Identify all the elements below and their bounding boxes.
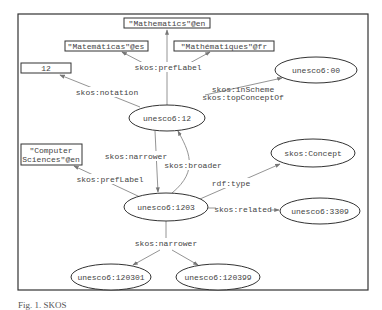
- node-label: unesco6:00: [292, 66, 340, 75]
- node-label: unesco6:1203: [137, 203, 195, 212]
- edge-label-narrower-2: skos:narrower: [135, 239, 198, 248]
- node-label-line-2: Sciences"@en: [22, 155, 80, 164]
- node-label: 12: [41, 64, 51, 73]
- node-label: unesco6:120301: [77, 273, 144, 282]
- edge-label-notation: skos:notation: [76, 88, 139, 97]
- node-label-line-1: "Computer: [29, 146, 72, 155]
- node-label: unesco6:12: [143, 114, 191, 123]
- node-label: "Mathématiques"@fr: [181, 42, 268, 51]
- edge-label-rdf-type: rdf:type: [212, 179, 251, 188]
- node-label: "Mathematics"@en: [129, 19, 206, 28]
- node-label: unesco6:3309: [291, 207, 349, 216]
- edge-label-broader: skos:broader: [164, 161, 222, 170]
- node-label: unesco6:120399: [184, 273, 251, 282]
- figure-caption: Fig. 1. SKOS: [18, 301, 67, 310]
- edge-label-preflabel: skos:prefLabel: [134, 63, 201, 72]
- edge-label-topconceptof: skos:topConceptOf: [202, 93, 284, 102]
- edge-label-related: skos:related: [214, 205, 272, 214]
- edge-label-preflabel-cs: skos:prefLabel: [76, 175, 143, 184]
- node-label: "Matemáticas"@es: [68, 42, 145, 51]
- edge-label-narrower: skos:narrower: [105, 152, 168, 161]
- node-label: skos:Concept: [284, 149, 342, 158]
